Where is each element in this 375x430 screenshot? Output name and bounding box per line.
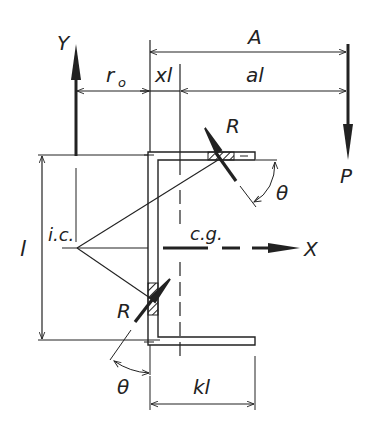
label-A: A <box>246 25 262 49</box>
weld-top <box>208 152 248 160</box>
x-axis-arrow-icon <box>268 243 300 253</box>
label-r0: r <box>106 63 116 87</box>
y-axis-arrow-icon <box>71 44 81 80</box>
label-instant-center: i.c. <box>48 224 74 245</box>
label-l: l <box>20 236 26 261</box>
y-axis <box>71 44 81 242</box>
load-P <box>343 44 353 160</box>
label-kl: kl <box>193 375 211 399</box>
label-y-axis: Y <box>57 31 71 55</box>
label-al: al <box>246 63 264 87</box>
label-x-axis: X <box>303 237 319 261</box>
label-r0-subscript: o <box>118 75 126 90</box>
label-R-bottom: R <box>117 299 131 323</box>
x-axis <box>163 243 300 253</box>
label-theta-top: θ <box>276 181 288 205</box>
label-center-gravity: c.g. <box>190 223 223 244</box>
label-theta-bottom: θ <box>117 375 129 399</box>
label-xl: xl <box>154 63 173 87</box>
angle-theta-top <box>240 160 277 207</box>
label-P: P <box>340 164 353 188</box>
label-R-top: R <box>226 114 240 138</box>
load-arrow-icon <box>343 124 353 160</box>
weld-diagram: Y A r o xl al R P θ i.c. c.g. X l R θ kl <box>0 0 375 430</box>
angle-theta-bottom <box>110 330 150 375</box>
